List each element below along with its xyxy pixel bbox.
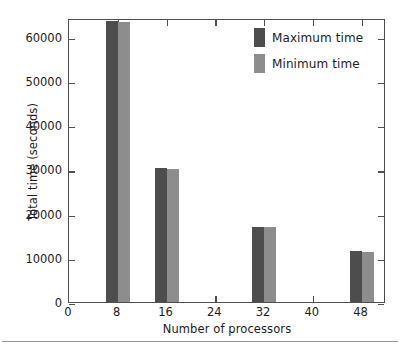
y-tick-right-50000	[378, 83, 384, 84]
legend-label-minimum-time: Minimum time	[272, 57, 360, 71]
y-tick-20000	[69, 216, 75, 217]
y-tick-label-60000: 60000	[2, 31, 62, 45]
bar-32-series-2	[264, 227, 276, 302]
x-tick-top-40	[313, 296, 314, 302]
bar-48-series-2	[362, 252, 374, 302]
x-tick-label-16: 16	[146, 305, 186, 319]
y-tick-label-10000: 10000	[2, 252, 62, 266]
x-tick-label-8: 8	[97, 305, 137, 319]
y-tick-10000	[69, 260, 75, 261]
bar-8-series-2	[118, 22, 130, 302]
y-tick-right-20000	[378, 216, 384, 217]
footer-divider	[2, 341, 398, 342]
x-tick-24	[215, 20, 216, 26]
x-tick-32	[264, 20, 265, 26]
y-tick-right-60000	[378, 39, 384, 40]
y-tick-right-10000	[378, 260, 384, 261]
bar-group-8	[106, 21, 130, 302]
y-tick-50000	[69, 83, 75, 84]
bar-8-series-1	[106, 21, 118, 302]
bar-group-48	[350, 251, 374, 302]
x-tick-label-40: 40	[292, 305, 332, 319]
bar-16-series-1	[155, 168, 167, 302]
x-tick-label-24: 24	[194, 305, 234, 319]
x-tick-label-48: 48	[341, 305, 381, 319]
legend-item-minimum-time: Minimum time	[254, 54, 363, 73]
bar-group-32	[252, 227, 276, 302]
x-tick-16	[167, 20, 168, 26]
bar-32-series-1	[252, 227, 264, 302]
x-tick-top-24	[215, 296, 216, 302]
y-tick-label-30000: 30000	[2, 163, 62, 177]
legend-item-maximum-time: Maximum time	[254, 28, 363, 47]
y-tick-30000	[69, 171, 75, 172]
chart-legend: Maximum time Minimum time	[254, 28, 363, 73]
y-tick-right-40000	[378, 127, 384, 128]
y-tick-label-40000: 40000	[2, 119, 62, 133]
x-tick-48	[362, 20, 363, 26]
legend-label-maximum-time: Maximum time	[272, 31, 363, 45]
y-tick-40000	[69, 127, 75, 128]
y-tick-right-30000	[378, 171, 384, 172]
bar-48-series-1	[350, 251, 362, 302]
y-tick-60000	[69, 39, 75, 40]
y-tick-label-50000: 50000	[2, 75, 62, 89]
x-tick-40	[313, 20, 314, 26]
bar-16-series-2	[167, 169, 179, 302]
y-tick-label-20000: 20000	[2, 208, 62, 222]
bar-group-16	[155, 168, 179, 302]
legend-swatch-minimum-time	[254, 54, 265, 73]
plot-area: Maximum time Minimum time	[68, 19, 385, 303]
x-tick-label-0: 0	[48, 305, 88, 319]
x-axis-title: Number of processors	[68, 322, 386, 336]
x-tick-label-32: 32	[243, 305, 283, 319]
legend-swatch-maximum-time	[254, 28, 265, 47]
bar-chart-figure: Total time (seconds) Number of processor…	[0, 0, 400, 351]
